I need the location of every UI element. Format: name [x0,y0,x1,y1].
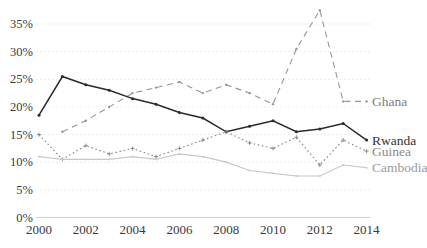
x-axis-tick-label: 2004 [120,222,147,237]
ghana-marker [319,9,321,11]
ghana-marker [272,103,274,105]
cambodia-marker [295,175,297,177]
cambodia-marker [85,158,87,160]
series-label-cambodia: Cambodia [372,160,427,175]
ghana-marker [155,86,157,88]
ghana-series: Ghana [61,9,407,133]
ghana-marker [85,120,87,122]
guinea-line [39,132,367,165]
x-axis-tick-label: 2010 [260,222,286,237]
rwanda-marker [365,139,368,142]
cambodia-marker [366,167,368,169]
y-axis-tick-label: 10% [10,155,33,169]
ghana-marker [108,106,110,108]
cambodia-marker [202,156,204,158]
ghana-marker [178,81,180,83]
rwanda-marker [108,89,111,92]
cambodia-marker [319,175,321,177]
cambodia-marker [108,158,110,160]
line-chart: 0%5%10%15%20%25%30%35%200020022004200620… [0,0,427,248]
x-axis-tick-label: 2000 [26,222,52,237]
rwanda-marker [318,128,321,131]
ghana-marker [295,48,297,50]
cambodia-marker [132,156,134,158]
rwanda-marker [38,114,41,117]
x-axis-tick-label: 2002 [73,222,99,237]
line-chart-figure: 0%5%10%15%20%25%30%35%200020022004200620… [0,0,427,248]
rwanda-marker [155,103,158,106]
rwanda-marker [272,119,275,122]
cambodia-marker [272,172,274,174]
cambodia-series: Cambodia [38,153,427,177]
y-axis-tick-label: 15% [10,128,33,142]
rwanda-marker [342,122,345,125]
ghana-marker [365,100,367,102]
y-axis-tick-label: 20% [10,100,33,114]
ghana-marker [248,92,250,94]
y-axis: 0%5%10%15%20%25%30%35% [10,17,33,225]
series-label-ghana: Ghana [372,94,407,109]
cambodia-marker [155,158,157,160]
rwanda-marker [295,130,298,133]
ghana-marker [61,131,63,133]
rwanda-marker [131,97,134,100]
y-axis-tick-label: 25% [10,72,33,86]
x-axis-tick-label: 2012 [307,222,333,237]
ghana-marker [342,100,344,102]
ghana-line [62,10,366,132]
ghana-marker [202,92,204,94]
x-axis: 20002002200420062008201020122014 [26,222,380,237]
cambodia-marker [249,170,251,172]
series-label-guinea: Guinea [372,144,411,159]
cambodia-marker [61,158,63,160]
cambodia-marker [225,161,227,163]
rwanda-marker [61,75,64,78]
x-axis-tick-label: 2006 [166,222,193,237]
cambodia-marker [38,156,40,158]
rwanda-marker [201,116,204,119]
ghana-marker [131,92,133,94]
rwanda-marker [178,111,181,114]
ghana-marker [225,84,227,86]
rwanda-marker [248,125,251,128]
cambodia-marker [178,153,180,155]
rwanda-marker [84,83,87,86]
rwanda-line [39,77,367,141]
y-axis-tick-label: 5% [16,183,33,197]
cambodia-marker [342,164,344,166]
y-axis-tick-label: 30% [10,45,33,59]
y-axis-tick-label: 35% [10,17,33,31]
rwanda-series: Rwanda [38,75,417,148]
x-axis-tick-label: 2008 [213,222,239,237]
x-axis-tick-label: 2014 [354,222,381,237]
